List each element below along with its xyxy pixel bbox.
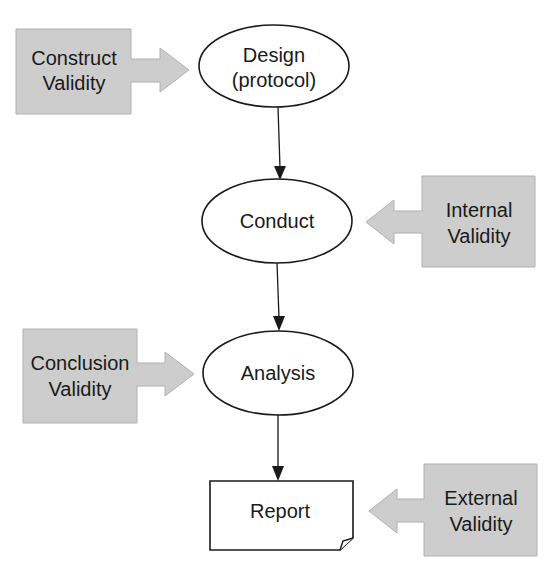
report-label: Report <box>250 500 310 522</box>
construct-validity-callout: Construct Validity <box>16 29 189 114</box>
analysis-label: Analysis <box>241 362 315 384</box>
conclusion-validity-arrow-shape <box>23 329 194 423</box>
external-validity-callout: External Validity <box>369 464 537 556</box>
design-node: Design (protocol) <box>199 25 349 107</box>
conduct-label: Conduct <box>240 210 315 232</box>
edge-line <box>278 107 280 168</box>
internal-validity-line2: Validity <box>448 225 511 247</box>
design-label: Design <box>243 44 305 66</box>
validity-flowchart: Construct Validity Design (protocol) Con… <box>0 0 546 573</box>
edge-line <box>277 263 279 318</box>
construct-validity-line1: Construct <box>31 47 117 69</box>
arrowhead-icon <box>272 466 284 481</box>
external-validity-line1: External <box>444 487 517 509</box>
conclusion-validity-callout: Conclusion Validity <box>23 329 194 423</box>
design-sublabel: (protocol) <box>232 69 316 91</box>
edge-design-to-conduct <box>274 107 286 180</box>
arrowhead-icon <box>274 166 286 180</box>
external-validity-line2: Validity <box>450 513 513 535</box>
internal-validity-line1: Internal <box>446 199 513 221</box>
analysis-node: Analysis <box>203 331 353 415</box>
internal-validity-arrow-shape <box>366 176 535 267</box>
design-ellipse <box>199 25 349 107</box>
conclusion-validity-line1: Conclusion <box>31 352 130 374</box>
internal-validity-callout: Internal Validity <box>366 176 535 267</box>
construct-validity-line2: Validity <box>43 72 106 94</box>
conduct-node: Conduct <box>202 179 352 263</box>
conclusion-validity-line2: Validity <box>49 378 112 400</box>
arrowhead-icon <box>273 316 285 331</box>
external-validity-arrow-shape <box>369 464 537 556</box>
report-node: Report <box>210 481 353 550</box>
edge-analysis-to-report <box>272 415 284 481</box>
edge-conduct-to-analysis <box>273 263 285 331</box>
